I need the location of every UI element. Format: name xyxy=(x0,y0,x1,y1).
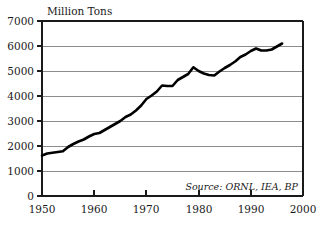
y-tick-label-7000: 7000 xyxy=(7,15,34,27)
x-tick-label-1970: 1970 xyxy=(133,203,160,215)
data-series-line xyxy=(42,44,282,156)
gridlines xyxy=(42,46,303,171)
y-tick-label-4000: 4000 xyxy=(7,90,34,102)
y-tick-label-6000: 6000 xyxy=(7,40,34,52)
x-tick-label-1990: 1990 xyxy=(238,203,265,215)
x-tick-label-1980: 1980 xyxy=(186,203,213,215)
y-tick-label-2000: 2000 xyxy=(7,140,34,152)
y-tick-label-1000: 1000 xyxy=(7,165,34,177)
y-axis-title: Million Tons xyxy=(47,5,112,17)
x-tick-label-2000: 2000 xyxy=(290,203,317,215)
x-axis-tick-labels: 1950 1960 1970 1980 1990 2000 xyxy=(29,203,317,215)
chart-figure: 7000 6000 5000 4000 3000 2000 1000 0 195… xyxy=(0,0,329,231)
source-annotation: Source: ORNL, IEA, BP xyxy=(185,181,298,192)
x-tick-label-1960: 1960 xyxy=(81,203,108,215)
x-tick-label-1950: 1950 xyxy=(29,203,56,215)
plot-frame xyxy=(42,21,303,196)
emissions-line-chart: 7000 6000 5000 4000 3000 2000 1000 0 195… xyxy=(0,0,329,231)
y-tick-label-3000: 3000 xyxy=(7,115,34,127)
y-tick-label-5000: 5000 xyxy=(7,65,34,77)
y-axis-tick-labels: 7000 6000 5000 4000 3000 2000 1000 0 xyxy=(7,15,34,202)
y-tick-label-0: 0 xyxy=(27,190,34,202)
